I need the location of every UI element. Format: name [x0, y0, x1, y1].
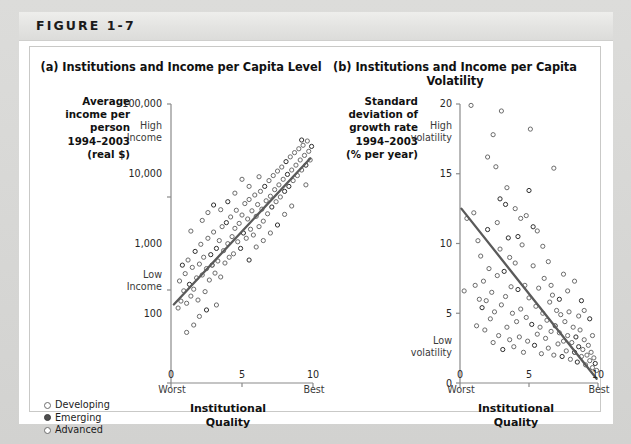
panel-a-xtick-0: 0 — [156, 369, 186, 380]
panel-b-xtick-5: 5 — [514, 369, 544, 380]
legend-item-developing[interactable]: Developing — [44, 399, 110, 412]
panel-b: (b) Institutions and Income per Capita V… — [316, 47, 602, 413]
figure-header-bar: FIGURE 1-7 — [19, 12, 613, 41]
panel-b-plot — [316, 47, 602, 413]
panel-a-xtick-5: 5 — [227, 369, 257, 380]
xaxis-title-line: Institutional — [168, 402, 288, 416]
legend-label: Advanced — [55, 424, 103, 437]
figure-number-label: FIGURE 1-7 — [36, 18, 136, 33]
panel-a: (a) Institutions and Income per Capita L… — [30, 47, 330, 413]
legend-label: Developing — [55, 399, 110, 412]
filled-circle-icon — [44, 414, 51, 421]
xaxis-title-line: Quality — [168, 416, 288, 430]
legend: Developing Emerging Advanced — [44, 399, 110, 437]
legend-item-advanced[interactable]: Advanced — [44, 424, 110, 437]
open-circle-icon — [44, 427, 51, 434]
xaxis-title-line: Quality — [456, 416, 576, 430]
legend-label: Emerging — [55, 412, 101, 425]
panel-b-xtick-0: 0 — [445, 369, 475, 380]
legend-item-emerging[interactable]: Emerging — [44, 412, 110, 425]
xaxis-title-line: Institutional — [456, 402, 576, 416]
panel-a-plot — [30, 47, 330, 413]
panel-b-worst-label: Worst — [441, 384, 481, 395]
panel-b-xaxis-title: Institutional Quality — [456, 402, 576, 430]
figure-container: FIGURE 1-7 (a) Institutions and Income p… — [19, 12, 613, 424]
panel-b-xtick-10: 10 — [583, 369, 613, 380]
panel-b-best-label: Best — [579, 384, 619, 395]
panel-a-xaxis-title: Institutional Quality — [168, 402, 288, 430]
open-circle-icon — [44, 402, 51, 409]
figure-body: (a) Institutions and Income per Capita L… — [29, 46, 601, 412]
panel-a-worst-label: Worst — [152, 384, 192, 395]
